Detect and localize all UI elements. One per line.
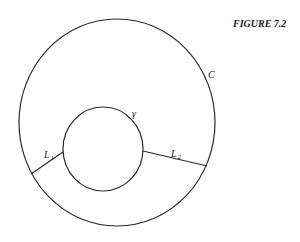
outer-circle-C bbox=[19, 19, 215, 226]
inner-curve-label: γ bbox=[132, 108, 137, 119]
figure-diagram: FIGURE 7.2 C γ L1 L2 bbox=[0, 0, 300, 242]
figure-title: FIGURE 7.2 bbox=[232, 18, 286, 29]
outer-curve-label: C bbox=[208, 69, 215, 80]
segment-L1-label: L1 bbox=[43, 149, 54, 162]
inner-circle-gamma bbox=[63, 107, 143, 191]
figure-canvas: FIGURE 7.2 C γ L1 L2 bbox=[0, 0, 300, 242]
